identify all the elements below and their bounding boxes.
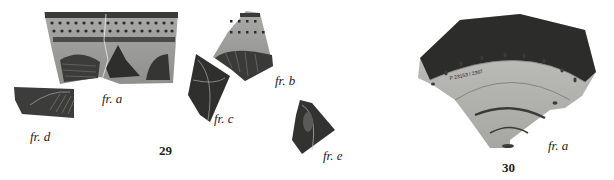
label-30-fr-a: fr. a [548, 138, 568, 154]
fragment-29-b [213, 11, 273, 81]
fragment-30-a: P 23153 / 2367 [418, 14, 596, 148]
figure-number-29: 29 [159, 143, 172, 159]
fragment-29-a [44, 12, 178, 84]
label-29-fr-a: fr. a [102, 91, 122, 107]
label-29-fr-b: fr. b [275, 73, 295, 89]
figure-number-30: 30 [502, 160, 515, 176]
label-29-fr-d: fr. d [30, 129, 50, 145]
fragment-29-d [14, 87, 74, 118]
fragment-29-e [292, 100, 335, 154]
label-29-fr-e: fr. e [323, 148, 343, 164]
label-29-fr-c: fr. c [214, 111, 234, 127]
fragments-illustration: P 23153 / 2367 [0, 0, 614, 180]
